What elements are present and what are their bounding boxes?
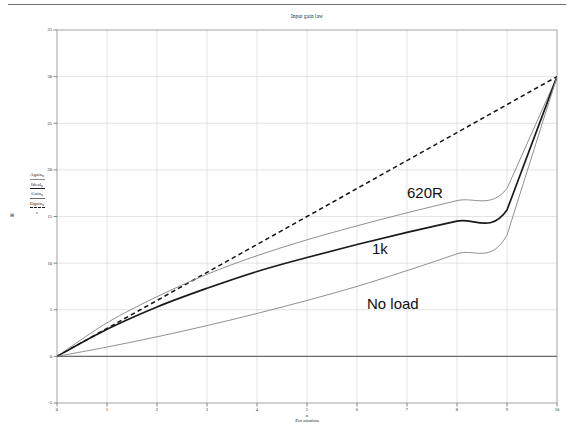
- x-axis-ticks: [57, 403, 557, 407]
- ylegend-line-sample: [30, 179, 45, 180]
- curve-annotation: 1k: [372, 240, 388, 257]
- ylegend-variable: Idealn: [18, 182, 56, 188]
- page-canvas: Input gain law: [0, 0, 574, 443]
- y-tick-label: 10: [37, 261, 52, 266]
- y-tick-label: 0: [37, 354, 52, 359]
- x-axis-caption: Pot rotation: [257, 418, 357, 424]
- y-tick-label: 15: [37, 214, 52, 219]
- y-tick-label: 5: [37, 307, 52, 312]
- ylegend-item: Gainn: [18, 191, 56, 199]
- y-tick-label: 30: [37, 74, 52, 79]
- x-tick-label: 7: [401, 407, 413, 412]
- x-tick-label: 9: [501, 407, 513, 412]
- ylegend-subscript: n: [42, 203, 44, 207]
- ylegend-item: Againn: [18, 172, 56, 180]
- x-tick-label: 10: [551, 407, 563, 412]
- ylegend-subscript: n: [42, 174, 44, 178]
- ylegend-line-sample: [30, 188, 45, 189]
- x-axis-label: n Pot rotation: [257, 413, 357, 424]
- ylegend-variable: Gainn: [18, 191, 56, 197]
- ylegend-item: Idealn: [18, 182, 56, 190]
- ylegend-line-sample: [30, 198, 45, 199]
- y-axis-trace-legend: AgainnIdealnGainnDgainnε: [18, 172, 56, 215]
- x-tick-label: 6: [351, 407, 363, 412]
- x-tick-label: 5: [301, 407, 313, 412]
- y-tick-label: 20: [37, 167, 52, 172]
- ylegend-line-sample: [30, 207, 45, 208]
- x-tick-label: 4: [251, 407, 263, 412]
- ylegend-subscript: n: [41, 184, 43, 188]
- ylegend-bullet: ⊞: [10, 212, 14, 218]
- ylegend-variable: Dgainn: [18, 201, 56, 207]
- x-tick-label: 1: [101, 407, 113, 412]
- x-tick-label: 2: [151, 407, 163, 412]
- curve-annotation: No load: [367, 295, 419, 312]
- y-tick-label: -5: [37, 400, 52, 405]
- y-tick-label: 35: [37, 27, 52, 32]
- ylegend-item: Dgainn: [18, 201, 56, 209]
- curve-annotation: 620R: [407, 184, 443, 201]
- y-tick-label: 25: [37, 121, 52, 126]
- y-axis-ticks: [54, 30, 58, 403]
- ylegend-variable: Againn: [18, 172, 56, 178]
- x-tick-label: 3: [201, 407, 213, 412]
- x-tick-label: 8: [451, 407, 463, 412]
- plot-container: [0, 0, 574, 443]
- ylegend-subscript: n: [41, 193, 43, 197]
- x-tick-label: 0: [51, 407, 63, 412]
- plot-svg: [0, 0, 574, 443]
